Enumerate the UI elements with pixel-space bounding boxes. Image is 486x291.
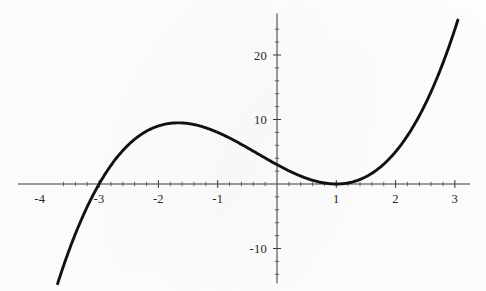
x-tick-label: -1: [212, 192, 223, 206]
plot-canvas: -4-3-2-11232010-10: [0, 0, 486, 291]
x-tick-label: -3: [94, 192, 105, 206]
x-tick-label: 2: [392, 192, 399, 206]
x-tick-label: 1: [333, 192, 340, 206]
function-plot: -4-3-2-11232010-10: [0, 0, 486, 291]
axes-group: [18, 14, 470, 284]
x-tick-label: -4: [34, 192, 45, 206]
y-tick-label: -10: [249, 242, 267, 256]
x-tick-label: 3: [452, 192, 459, 206]
y-tick-label: 20: [254, 49, 267, 63]
y-tick-label: 10: [254, 113, 267, 127]
x-tick-label: -2: [153, 192, 164, 206]
